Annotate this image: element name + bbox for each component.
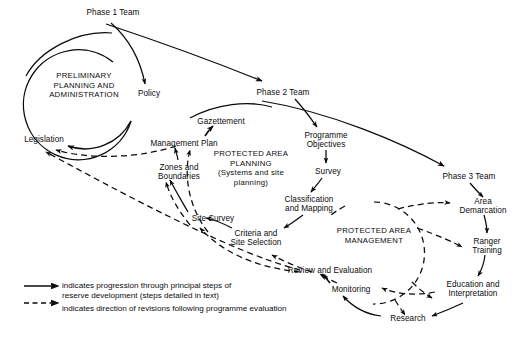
node-phase1team[interactable]: Phase 1 Team xyxy=(80,8,146,17)
node-gazettement[interactable]: Gazettement xyxy=(190,117,252,126)
node-research[interactable]: Research xyxy=(385,314,431,323)
node-criteria-and-site-selection[interactable]: Criteria and Site Selection xyxy=(225,229,287,247)
node-classification-and-mapping[interactable]: Classification and Mapping xyxy=(276,195,342,213)
cycle-title-protected-area-planning: PROTECTED AREA PLANNING (Systems and sit… xyxy=(196,149,306,188)
arrow-mgmt-to-monitoring-return xyxy=(382,288,435,294)
node-site-survey[interactable]: Site Survey xyxy=(185,214,241,223)
legend-dashed-text: indicates direction of revisions followi… xyxy=(62,304,382,314)
arrow-areademarcation-to-ranger xyxy=(484,215,487,233)
arrow-survey-to-classification xyxy=(311,178,322,192)
cycle-title-protected-area-management: PROTECTED AREA MANAGEMENT xyxy=(324,226,424,245)
arrow-zones-to-mgmtplan xyxy=(175,148,178,160)
arrow-mgmt-to-research xyxy=(395,300,405,315)
protected-area-management-circle xyxy=(373,202,425,304)
arrow-mgmtplan-to-gazettement xyxy=(205,126,213,136)
node-programme-objectives[interactable]: Programme Objectives xyxy=(298,131,354,149)
node-area-demarcation[interactable]: Area Demarcation xyxy=(452,197,514,215)
preliminary-circle-return xyxy=(68,121,131,149)
node-policy[interactable]: Policy xyxy=(131,89,167,98)
arrow-sitesurvey-to-zones xyxy=(170,180,188,212)
node-phase3team[interactable]: Phase 3 Team xyxy=(436,172,502,181)
legend-solid-text: indicates progression through principal … xyxy=(62,281,362,301)
node-ranger-training[interactable]: Ranger Training xyxy=(464,237,510,255)
node-management-plan[interactable]: Management Plan xyxy=(142,139,226,148)
arrow-mgmt-to-education xyxy=(412,282,432,298)
arrow-classification-to-criteria xyxy=(284,215,303,228)
arrow-phase1-to-circle xyxy=(26,33,112,76)
node-legislation[interactable]: Legislation xyxy=(16,135,72,144)
diagram-canvas: Phase 1 Team Policy Legislation Phase 2 … xyxy=(0,0,524,340)
node-review-and-evaluation[interactable]: Review and Evaluation xyxy=(283,266,377,275)
cycle-title-preliminary-planning: PRELIMINARY PLANNING AND ADMINISTRATION xyxy=(36,71,132,100)
arrow-mgmt-to-areademarcation xyxy=(398,203,450,209)
arrow-education-to-research xyxy=(432,303,463,316)
node-phase2team[interactable]: Phase 2 Team xyxy=(250,88,316,97)
arrow-ranger-to-education xyxy=(478,255,485,276)
node-education-and-interpretation[interactable]: Education and Interpretation xyxy=(437,280,509,298)
arrow-policy-to-gazettement-arc xyxy=(190,104,272,118)
arrow-phase3-to-areademarcation xyxy=(470,183,483,197)
node-survey[interactable]: Survey xyxy=(310,167,346,176)
